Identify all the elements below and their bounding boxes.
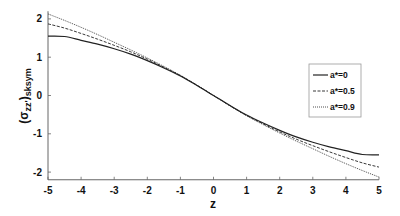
x-tick-label: -1 xyxy=(176,185,185,196)
svg-text:(σzz')sksym: (σzz')sksym xyxy=(17,68,33,123)
chart-canvas: -5-4-3-2-1012345-2-1012 a*=0a*=0.5a*=0.9… xyxy=(0,0,400,216)
y-tick-label: -2 xyxy=(33,167,42,178)
y-tick-label: -1 xyxy=(33,128,42,139)
x-tick-label: -4 xyxy=(77,185,86,196)
y-label-sub: zz' xyxy=(23,100,33,111)
x-tick-label: -5 xyxy=(44,185,53,196)
x-tick-label: 3 xyxy=(310,185,316,196)
x-tick-label: 1 xyxy=(244,185,250,196)
x-tick-label: 4 xyxy=(343,185,349,196)
y-tick-label: 1 xyxy=(36,52,42,63)
y-axis-label: (σzz')sksym xyxy=(17,68,33,123)
x-tick-label: 5 xyxy=(376,185,382,196)
x-tick-label: -3 xyxy=(110,185,119,196)
y-tick-label: 2 xyxy=(36,13,42,24)
y-label-sub2: sksym xyxy=(23,68,33,96)
x-tick-label: -2 xyxy=(143,185,152,196)
legend: a*=0a*=0.5a*=0.9 xyxy=(309,64,361,117)
x-tick-label: 0 xyxy=(211,185,217,196)
y-tick-label: 0 xyxy=(36,90,42,101)
y-label-open: (σ xyxy=(17,111,31,123)
x-axis-label: z xyxy=(210,197,216,211)
legend-label-1: a*=0.5 xyxy=(330,86,355,96)
legend-label-2: a*=0.9 xyxy=(330,102,355,112)
legend-label-0: a*=0 xyxy=(330,70,348,80)
x-tick-label: 2 xyxy=(277,185,283,196)
